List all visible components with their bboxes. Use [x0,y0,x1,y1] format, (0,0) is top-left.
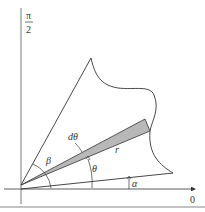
dtheta-pointer [75,143,82,152]
beta-label: β [45,155,51,166]
theta-label: θ [92,163,97,174]
polar-area-diagram: π 2 0 dθ r β θ α [0,0,205,212]
polar-axis-label: 0 [190,194,195,205]
region-boundary [21,58,173,189]
r-label: r [115,144,119,155]
dtheta-label: dθ [68,131,78,142]
vertical-axis-label-numerator: π [26,10,31,21]
area-element-wedge [21,119,150,185]
alpha-label: α [132,178,138,189]
vertical-axis-label-denominator: 2 [26,24,31,35]
